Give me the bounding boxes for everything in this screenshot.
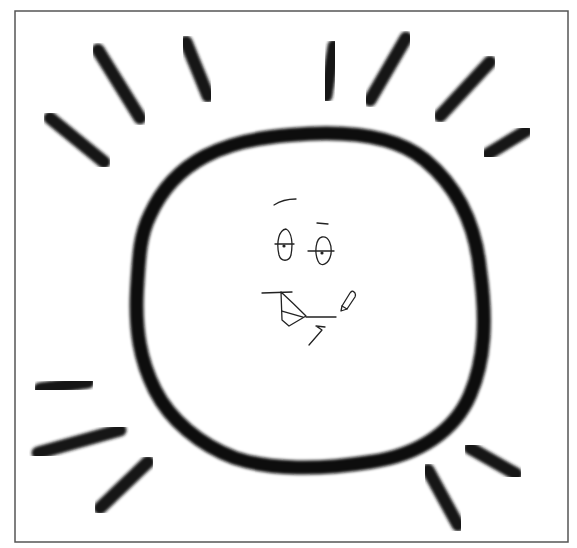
ray-top-center bbox=[326, 46, 334, 96]
pupil-left bbox=[282, 244, 285, 247]
pupil-right bbox=[320, 251, 323, 254]
drawing-canvas bbox=[0, 0, 577, 548]
ray-left-lower-short bbox=[40, 382, 88, 389]
